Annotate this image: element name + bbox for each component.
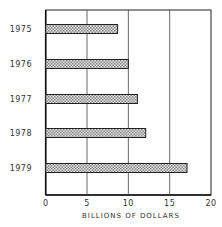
bar-chart: 19751976197719781979 05101520 BILLIONS O… <box>0 0 222 227</box>
y-tick-label: 1978 <box>10 129 32 138</box>
x-tick-label: 5 <box>84 199 90 208</box>
y-tick-label: 1977 <box>10 95 32 104</box>
y-tick-label: 1976 <box>10 60 32 69</box>
x-axis-labels: 05101520 <box>43 199 217 208</box>
x-tick-label: 15 <box>164 199 175 208</box>
x-axis-title: BILLIONS OF DOLLARS <box>82 212 180 220</box>
bar-1976 <box>46 60 129 69</box>
bar-1978 <box>46 129 146 138</box>
y-tick-label: 1975 <box>10 25 32 34</box>
bar-1977 <box>46 95 138 104</box>
bar-1979 <box>46 164 187 173</box>
y-axis-labels: 19751976197719781979 <box>10 25 32 173</box>
x-tick-label: 0 <box>43 199 49 208</box>
y-tick-label: 1979 <box>10 164 32 173</box>
x-tick-label: 10 <box>123 199 134 208</box>
x-tick-label: 20 <box>205 199 216 208</box>
bars <box>46 25 187 173</box>
bar-1975 <box>46 25 118 34</box>
